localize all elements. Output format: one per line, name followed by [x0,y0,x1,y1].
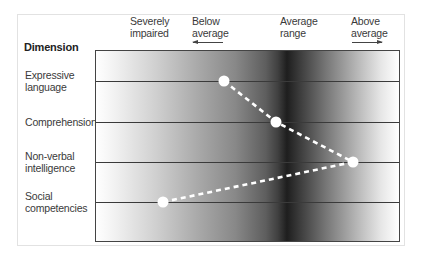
data-point-marker [219,76,230,87]
profile-line [163,81,353,202]
data-series-overlay [0,0,423,257]
data-point-marker [271,117,282,128]
profile-markers [158,76,359,208]
data-point-marker [348,157,359,168]
data-point-marker [158,197,169,208]
